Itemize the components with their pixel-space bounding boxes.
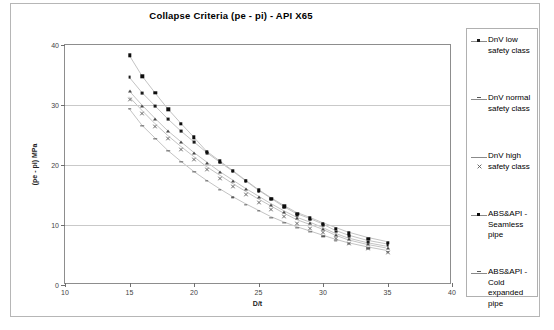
legend-item-label: DnV high safety class xyxy=(488,151,538,172)
x-tick-mark xyxy=(65,283,66,287)
legend-item-label: ABS&API - Seamless pipe xyxy=(488,209,538,241)
data-point xyxy=(230,175,235,193)
legend-item-label: DnV normal safety class xyxy=(488,93,538,114)
data-point xyxy=(205,150,208,153)
data-point xyxy=(244,179,247,182)
data-point xyxy=(269,198,274,216)
data-point xyxy=(347,232,350,235)
plot-area: 01020304010152025303540 xyxy=(64,44,451,284)
data-point xyxy=(204,158,209,176)
data-point xyxy=(154,105,157,108)
y-tick-label: 20 xyxy=(51,162,59,169)
data-point xyxy=(192,172,196,173)
data-point xyxy=(179,138,184,156)
series-connector-lines xyxy=(65,45,450,283)
y-tick-mark xyxy=(61,225,65,226)
data-point xyxy=(295,227,299,228)
y-tick-label: 10 xyxy=(51,222,59,229)
data-point xyxy=(217,167,222,185)
y-tick-mark xyxy=(61,105,65,106)
y-tick-label: 40 xyxy=(51,42,59,49)
chart-legend: DnV low safety classDnV normal safety cl… xyxy=(466,28,538,297)
data-point xyxy=(347,244,351,245)
data-point xyxy=(166,151,170,152)
y-tick-label: 30 xyxy=(51,102,59,109)
series-line xyxy=(129,77,386,244)
data-point xyxy=(295,212,298,215)
data-point xyxy=(270,197,273,200)
y-gridline xyxy=(65,105,450,106)
data-point xyxy=(244,204,248,205)
x-tick-label: 40 xyxy=(448,289,456,296)
legend-item-2[interactable]: DnV high safety class xyxy=(470,151,538,172)
y-gridline xyxy=(65,165,450,166)
chart-frame: Collapse Criteria (pe - pi) - API X65 (p… xyxy=(10,3,540,317)
x-tick-mark xyxy=(388,283,389,287)
data-point xyxy=(141,92,144,95)
x-tick-mark xyxy=(452,283,453,287)
y-tick-mark xyxy=(61,45,65,46)
data-point xyxy=(321,236,325,237)
data-point xyxy=(231,169,234,172)
x-tick-label: 25 xyxy=(255,289,263,296)
legend-marker-icon xyxy=(470,268,488,278)
data-point xyxy=(386,241,389,244)
x-tick-mark xyxy=(259,283,260,287)
x-tick-mark xyxy=(323,283,324,287)
x-tick-label: 15 xyxy=(126,289,134,296)
data-point xyxy=(179,122,182,125)
x-tick-label: 35 xyxy=(384,289,392,296)
chart-title: Collapse Criteria (pe - pi) - API X65 xyxy=(11,10,451,21)
data-point xyxy=(141,74,144,77)
legend-item-3[interactable]: ABS&API - Seamless pipe xyxy=(470,209,538,241)
data-point xyxy=(257,211,261,212)
series-line xyxy=(129,91,386,246)
data-point xyxy=(180,130,183,133)
legend-marker-icon xyxy=(470,152,488,162)
data-point xyxy=(321,222,324,225)
data-point xyxy=(179,161,183,162)
legend-item-label: ABS&API - Cold expanded pipe xyxy=(488,267,538,309)
series-line xyxy=(129,55,386,241)
legend-item-0[interactable]: DnV low safety class xyxy=(470,35,538,56)
data-point xyxy=(366,237,369,240)
data-point xyxy=(366,248,370,249)
data-point xyxy=(153,115,158,133)
data-point xyxy=(154,91,157,94)
data-point xyxy=(334,240,338,241)
data-point xyxy=(192,148,197,166)
data-point xyxy=(154,138,158,139)
data-point xyxy=(386,251,390,252)
x-tick-mark xyxy=(130,283,131,287)
x-tick-label: 20 xyxy=(190,289,198,296)
data-point xyxy=(218,189,222,190)
data-point xyxy=(308,217,311,220)
data-point xyxy=(193,141,196,144)
legend-marker-icon xyxy=(470,36,488,46)
data-point xyxy=(205,181,209,182)
data-point xyxy=(140,102,145,120)
data-point xyxy=(166,107,169,110)
data-point xyxy=(308,232,312,233)
data-point xyxy=(231,197,235,198)
data-point xyxy=(128,76,131,79)
data-point xyxy=(128,53,131,56)
data-point xyxy=(257,188,260,191)
data-point xyxy=(192,136,195,139)
data-point xyxy=(141,125,145,126)
data-point xyxy=(243,183,248,201)
legend-item-label: DnV low safety class xyxy=(488,35,538,56)
legend-marker-icon xyxy=(470,210,488,220)
y-tick-mark xyxy=(61,165,65,166)
data-point xyxy=(167,118,170,121)
y-gridline xyxy=(65,225,450,226)
x-tick-label: 30 xyxy=(319,289,327,296)
y-axis-title-label: (pe - pi) MPa xyxy=(32,143,39,185)
y-tick-label: 0 xyxy=(55,282,59,289)
data-point xyxy=(283,205,286,208)
legend-item-4[interactable]: ABS&API - Cold expanded pipe xyxy=(470,267,538,309)
legend-item-1[interactable]: DnV normal safety class xyxy=(470,93,538,114)
y-axis-title: (pe - pi) MPa xyxy=(29,44,41,284)
data-point xyxy=(270,217,274,218)
data-point xyxy=(128,109,132,110)
